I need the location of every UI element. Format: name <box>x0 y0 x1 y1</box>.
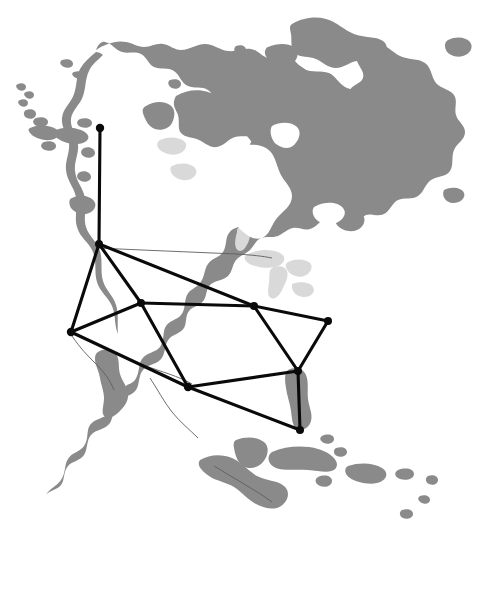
map-canvas <box>0 0 482 593</box>
network-node-n3[interactable] <box>137 299 145 307</box>
network-edge-n1-n2[interactable] <box>99 128 100 244</box>
network-node-n1[interactable] <box>96 124 104 132</box>
network-node-n2[interactable] <box>95 240 103 248</box>
network-edge-n8-n9[interactable] <box>298 371 300 430</box>
puerto-rico <box>395 469 414 480</box>
network-node-n5[interactable] <box>250 302 258 310</box>
network-node-n7[interactable] <box>184 383 192 391</box>
small-arctic-island-d <box>234 45 246 54</box>
network-node-n9[interactable] <box>296 426 304 434</box>
network-node-n6[interactable] <box>324 317 332 325</box>
network-node-n8[interactable] <box>294 367 302 375</box>
north-america-network-figure <box>0 0 482 593</box>
network-node-n4[interactable] <box>67 328 75 336</box>
